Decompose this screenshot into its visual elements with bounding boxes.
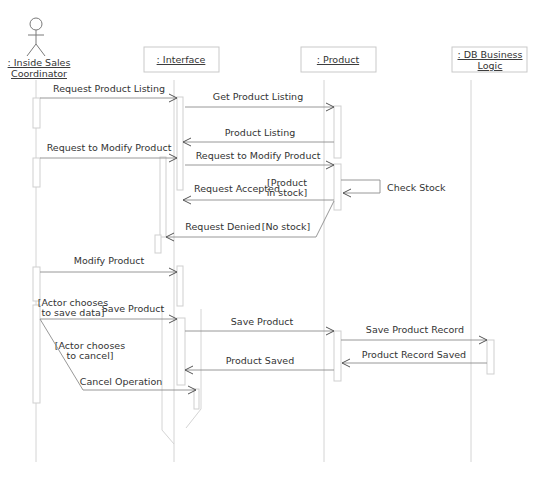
svg-text:Check Stock: Check Stock [387,182,446,193]
message-check-stock: Check Stock [341,180,446,197]
svg-text:Get Product Listing: Get Product Listing [213,91,303,102]
interface-branch-outline-left [162,306,174,444]
object-interface: : Interface [144,47,219,72]
svg-text:Request to Modify Product: Request to Modify Product [196,150,321,161]
actor-label-line2: Coordinator [11,68,67,79]
message-cancel-operation: [Actor chooses to cancel] Cancel Operati… [40,319,196,394]
message-request-accepted: Request Accepted [Product in stock] [183,177,334,204]
message-save-product-1: [Actor chooses to save data] Save Produc… [38,297,177,323]
actor-label-line1: : Inside Sales [8,57,71,68]
activation-interface-5 [194,389,199,409]
guard-no-stock: [No stock] [262,221,311,232]
svg-text:Cancel Operation: Cancel Operation [80,376,162,387]
message-modify-product: Modify Product [40,255,177,276]
activation-interface-2 [155,235,161,253]
guard-product-in-stock-line2: in stock] [267,187,308,198]
svg-text:Save Product: Save Product [102,303,165,314]
guard-save-data-line2: to save data] [42,307,105,318]
activation-db-1 [487,340,494,374]
object-db-business-logic: : DB Business Logic [452,47,527,72]
db-label-line2: Logic [478,60,503,71]
svg-text:Save Product: Save Product [231,316,294,327]
activation-interface-1 [177,97,183,190]
message-request-to-modify-product-1: Request to Modify Product [40,142,177,162]
svg-text:Request Product Listing: Request Product Listing [53,83,165,94]
guard-cancel-line2: to cancel] [66,350,113,361]
activation-product-1 [334,106,341,158]
svg-text:Save Product Record: Save Product Record [366,324,464,335]
message-request-product-listing: Request Product Listing [40,83,177,102]
actor-leg-left-icon [27,44,36,56]
message-request-denied: Request Denied [No stock] [166,201,334,241]
activation-interface-4 [177,318,185,385]
product-label: : Product [317,54,360,65]
svg-text:Product Record Saved: Product Record Saved [362,349,466,360]
activation-actor-4 [33,305,40,403]
svg-text:Modify Product: Modify Product [74,255,145,266]
actor-inside-sales-coordinator: : Inside Sales Coordinator [8,18,71,79]
message-product-saved: Product Saved [185,355,334,374]
message-request-to-modify-product-2: Request to Modify Product [185,150,334,169]
svg-text:Request to Modify Product: Request to Modify Product [47,142,172,153]
activation-actor-1 [33,98,40,128]
actor-leg-right-icon [36,44,45,56]
message-product-record-saved: Product Record Saved [342,349,487,367]
activation-actor-2 [33,158,40,187]
object-product: : Product [301,47,376,72]
message-save-product-2: Save Product [185,316,334,335]
svg-text:Product Listing: Product Listing [225,127,295,138]
db-label-line1: : DB Business [458,49,523,60]
svg-text:Request Denied: Request Denied [185,221,260,232]
activation-actor-3 [33,267,40,301]
interface-label: : Interface [157,54,206,65]
actor-head-icon [30,18,42,30]
svg-text:Product Saved: Product Saved [226,355,294,366]
sequence-diagram: : Inside Sales Coordinator : Interface :… [0,0,544,478]
message-save-product-record: Save Product Record [341,324,487,344]
activation-product-2 [334,164,341,210]
message-get-product-listing: Get Product Listing [185,91,334,111]
activation-interface-outer [160,157,166,237]
message-product-listing: Product Listing [183,127,334,146]
activation-product-3 [334,331,341,381]
